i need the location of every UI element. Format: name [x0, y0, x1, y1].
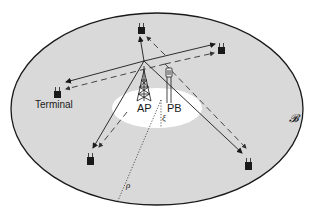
region-label: 𝓑 [289, 113, 299, 124]
rho-label: ρ [126, 181, 130, 190]
xi-label: ξ [162, 114, 166, 123]
inner-disk [112, 88, 202, 128]
terminal-label: Terminal [35, 100, 73, 110]
network-diagram: Terminal AP PB ξ ρ 𝓑 [0, 0, 313, 213]
pb-label: PB [167, 103, 182, 114]
ap-label: AP [137, 103, 152, 114]
